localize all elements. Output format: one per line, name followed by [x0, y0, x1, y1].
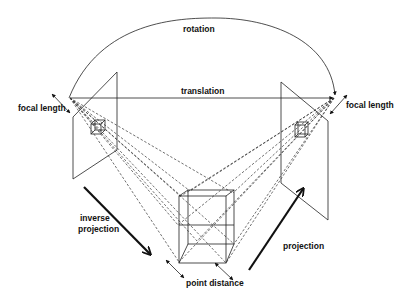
- focal-length-right-label: focal length: [346, 100, 394, 110]
- rotation-label: rotation: [183, 24, 215, 34]
- projection-label: projection: [283, 241, 324, 251]
- inverse-projection-label-2: projection: [78, 224, 119, 234]
- right-camera-plane: [281, 82, 328, 220]
- inverse-projection-label-1: inverse: [80, 213, 110, 223]
- right-image-cube: [295, 122, 308, 137]
- focal-length-left-label: focal length: [18, 103, 66, 113]
- projection-arrow: [249, 189, 303, 270]
- stereo-projection-diagram: rotation translation focal length focal …: [0, 0, 400, 302]
- 3d-cube: [179, 190, 234, 263]
- point-distance-label: point distance: [186, 278, 244, 288]
- projection-rays: [70, 98, 334, 263]
- translation-label: translation: [181, 86, 224, 96]
